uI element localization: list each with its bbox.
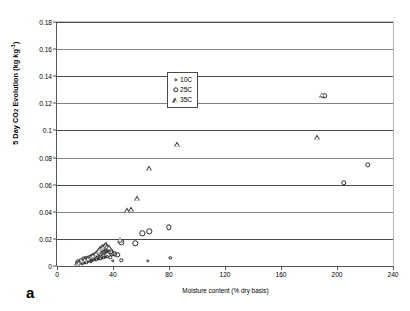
plot-right-border [393, 22, 394, 266]
data-point-35c [146, 166, 152, 171]
data-point-35c [79, 258, 85, 263]
y-tick-mark [53, 103, 57, 104]
legend-marker-icon [171, 95, 180, 105]
x-tick-label: 240 [387, 271, 398, 278]
gridline [57, 185, 393, 186]
data-point-35c [96, 247, 102, 252]
data-point-25c [81, 257, 86, 262]
legend-marker-glyph [173, 87, 178, 92]
x-tick-mark [113, 266, 114, 270]
data-point-25c [86, 255, 91, 260]
data-point-25c [105, 247, 110, 252]
y-tick-label: 0.14 [39, 73, 52, 80]
legend-item: 35C [171, 95, 192, 105]
data-point-10c [99, 256, 102, 259]
data-point-25c [103, 248, 108, 253]
y-axis-title-sup: -1 [10, 44, 16, 49]
data-point-35c [74, 261, 80, 266]
data-point-35c [88, 254, 94, 259]
y-axis-line [56, 22, 57, 266]
data-point-35c [103, 242, 109, 247]
legend-item: 10C [171, 75, 192, 85]
data-point-35c [97, 246, 103, 251]
x-tick-label: 200 [331, 271, 342, 278]
data-point-25c [365, 162, 370, 167]
y-tick-mark [53, 49, 57, 50]
data-point-25c [100, 250, 105, 255]
data-point-10c [108, 256, 111, 259]
y-tick-mark [53, 157, 57, 158]
y-tick-label: 0 [48, 263, 52, 270]
x-tick-mark [57, 266, 58, 270]
data-point-25c [95, 252, 100, 257]
data-point-35c [99, 245, 105, 250]
x-tick-label: 0 [55, 271, 59, 278]
legend-marker-icon [171, 85, 180, 95]
legend-label: 35C [180, 95, 192, 105]
data-point-35c [100, 243, 106, 248]
x-tick-mark [337, 266, 338, 270]
data-point-10c [78, 262, 81, 265]
data-point-25c [107, 249, 112, 254]
data-point-10c [93, 258, 96, 261]
y-tick-mark [53, 211, 57, 212]
panel-letter: a [26, 285, 34, 300]
y-axis-title-suffix: ) [11, 42, 20, 45]
y-tick-mark [53, 238, 57, 239]
data-point-10c [101, 256, 104, 259]
gridline [57, 239, 393, 240]
data-point-10c [87, 259, 90, 262]
gridline [57, 76, 393, 77]
x-tick-label: 120 [219, 271, 230, 278]
legend-item: 25C [171, 85, 192, 95]
y-tick-mark [53, 22, 57, 23]
gridline [57, 49, 393, 50]
y-tick-label: 0.16 [39, 46, 52, 53]
data-point-10c [169, 256, 172, 259]
data-point-35c [93, 250, 99, 255]
legend-label: 10C [180, 75, 192, 85]
y-tick-label: 0.06 [39, 181, 52, 188]
data-point-10c [146, 259, 149, 262]
data-point-25c [133, 241, 138, 246]
x-tick-mark [169, 266, 170, 270]
y-tick-mark [53, 130, 57, 131]
gridline [57, 22, 393, 23]
legend-marker-glyph [173, 98, 179, 103]
data-point-10c [79, 261, 82, 264]
data-point-35c [102, 242, 108, 247]
y-axis-title-mid: Evolution (kg kg [11, 49, 20, 109]
data-point-10c [92, 258, 95, 261]
data-point-10c [100, 256, 103, 259]
y-tick-label: 0.08 [39, 154, 52, 161]
data-point-10c [90, 259, 93, 262]
chart-figure: 5 Day CO2 Evolution (kg kg-1) Moisture c… [0, 0, 410, 311]
data-point-35c [314, 135, 320, 140]
x-tick-mark [225, 266, 226, 270]
data-point-35c [174, 142, 180, 147]
plot-area: 00.020.040.060.080.10.120.140.160.18 040… [57, 22, 393, 266]
data-point-35c [76, 259, 82, 264]
data-point-25c [106, 246, 111, 251]
y-axis-title-prefix: 5 Day CO [11, 112, 20, 145]
data-point-25c [89, 254, 94, 259]
data-point-25c [84, 256, 89, 261]
data-point-25c [109, 250, 114, 255]
data-point-25c [75, 259, 80, 264]
x-tick-label: 160 [275, 271, 286, 278]
y-tick-label: 0.18 [39, 19, 52, 26]
data-point-10c [106, 255, 109, 258]
legend-marker-glyph [174, 78, 177, 81]
y-tick-label: 0.12 [39, 100, 52, 107]
data-point-10c [96, 257, 99, 260]
data-point-25c [166, 225, 171, 230]
legend-marker-icon [171, 75, 180, 85]
data-point-25c [102, 249, 107, 254]
data-point-10c [80, 262, 83, 265]
data-point-10c [94, 258, 97, 261]
data-point-10c [86, 260, 89, 263]
data-point-35c [90, 252, 96, 257]
data-point-10c [104, 255, 107, 258]
data-point-25c [322, 93, 327, 98]
legend-label: 25C [180, 85, 192, 95]
